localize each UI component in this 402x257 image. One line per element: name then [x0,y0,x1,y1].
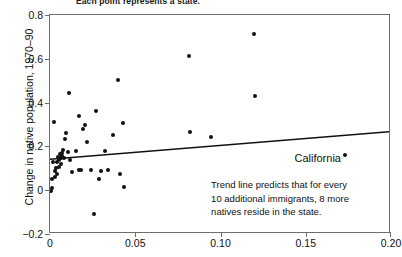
data-point [343,153,347,157]
data-point [94,109,98,113]
y-tick-label: 0 [37,184,43,196]
data-point [83,123,87,127]
y-tick-label: 0.6 [28,53,43,65]
y-tick-label: 0.4 [28,97,43,109]
data-point [81,127,85,131]
data-point [99,169,103,173]
data-point [79,168,83,172]
x-tick-label: 0.15 [296,237,316,249]
data-point [77,114,81,118]
data-point [61,148,65,152]
data-point [70,170,74,174]
data-point [85,140,89,144]
data-point [59,162,63,166]
data-point [92,212,96,216]
trendline-note-line-1: Trend line predicts that for every [211,178,349,191]
x-tick-label: 0.20 [381,237,401,249]
y-tick [45,146,50,147]
data-point [67,91,71,95]
data-point [187,54,191,58]
data-point [62,156,66,160]
data-point [106,168,110,172]
data-point [55,172,59,176]
data-point [64,131,68,135]
data-point [111,133,115,137]
data-point [97,177,101,181]
data-point [116,78,120,82]
y-axis-label: Change in native population, 1970–90 [23,2,35,232]
x-tick-label: 0 [47,237,53,249]
data-point [74,149,78,153]
x-tick-label: 0.05 [125,237,145,249]
y-tick [45,234,50,235]
california-annotation: California [294,152,340,164]
scatter-chart-figure: Each point represents a state. Change in… [0,0,402,257]
trendline-note-line-3: natives reside in the state. [211,205,349,218]
y-tick-label: 0.2 [28,140,43,152]
data-point [188,130,192,134]
data-point [103,149,107,153]
data-point [122,185,126,189]
plot-inner: California Trend line predicts that for … [50,15,389,232]
data-point [63,137,67,141]
y-tick-label: 0.8 [28,9,43,21]
plot-area: California Trend line predicts that for … [49,14,390,233]
y-tick-label: −0.2 [22,228,43,240]
y-tick [45,15,50,16]
y-tick [45,59,50,60]
data-point [209,135,213,139]
data-point [66,150,70,154]
y-tick [45,190,50,191]
figure-caption: Each point represents a state. [76,0,376,6]
data-point [253,94,257,98]
data-point [121,121,125,125]
data-point [118,172,122,176]
trendline-note: Trend line predicts that for every 10 ad… [211,178,349,218]
data-point [252,32,256,36]
x-tick-label: 0.10 [210,237,230,249]
data-point [89,168,93,172]
trendline-note-line-2: 10 additional immigrants, 8 more [211,192,349,205]
y-tick [45,103,50,104]
data-point [52,120,56,124]
data-point [68,158,72,162]
